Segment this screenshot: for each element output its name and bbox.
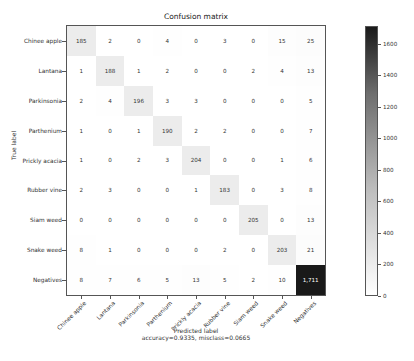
matrix-cell: 185: [67, 26, 96, 56]
matrix-cell: 190: [153, 116, 182, 146]
matrix-cell: 2: [239, 56, 268, 86]
matrix-cell: 0: [96, 116, 125, 146]
matrix-cell: 0: [182, 205, 211, 235]
x-tick: [139, 296, 140, 299]
matrix-cell: 21: [296, 235, 325, 265]
matrix-cell: 0: [239, 86, 268, 116]
matrix-cell: 8: [67, 235, 96, 265]
y-tick-label: Prickly acacia: [23, 158, 62, 164]
matrix-cell: 3: [153, 146, 182, 176]
matrix-cell: 5: [210, 265, 239, 295]
matrix-cell: 4: [96, 86, 125, 116]
matrix-cell: 188: [96, 56, 125, 86]
y-tick: [62, 161, 66, 162]
matrix-cell: 0: [124, 205, 153, 235]
x-tick-label: Lantana: [95, 300, 116, 321]
heatmap-plot: 1852040301525118812002413241963300051011…: [66, 25, 326, 296]
matrix-cell: 0: [124, 235, 153, 265]
matrix-cell: 0: [210, 56, 239, 86]
y-tick-label: Parthenium: [29, 128, 62, 134]
colorbar-tick: [378, 138, 381, 139]
matrix-cell: 0: [268, 86, 297, 116]
matrix-cell: 8: [67, 265, 96, 295]
y-tick: [62, 101, 66, 102]
matrix-cell: 10: [268, 265, 297, 295]
matrix-cell: 3: [268, 175, 297, 205]
matrix-cell: 0: [182, 26, 211, 56]
matrix-cell: 0: [96, 205, 125, 235]
x-axis-title: Predicted label accuracy=0.9335, misclas…: [66, 327, 326, 341]
matrix-cell: 2: [124, 146, 153, 176]
matrix-cell: 1: [67, 146, 96, 176]
matrix-cell: 3: [182, 86, 211, 116]
matrix-cell: 0: [239, 175, 268, 205]
matrix-cell: 0: [210, 205, 239, 235]
colorbar-tick: [378, 296, 381, 297]
colorbar-tick-label: 0: [383, 293, 387, 299]
matrix-cell: 0: [153, 205, 182, 235]
x-tick: [81, 296, 82, 299]
matrix-cell: 2: [210, 235, 239, 265]
colorbar-tick-label: 1400: [383, 72, 397, 78]
matrix-cell: 15: [268, 26, 297, 56]
colorbar-tick: [378, 170, 381, 171]
colorbar-tick-label: 1600: [383, 41, 397, 47]
x-tick-label: Negatives: [292, 300, 317, 325]
y-tick: [62, 250, 66, 251]
x-tick: [282, 296, 283, 299]
matrix-cell: 0: [153, 175, 182, 205]
colorbar-tick: [378, 233, 381, 234]
y-tick-label: Parkinsonia: [29, 98, 62, 104]
matrix-cell: 13: [296, 205, 325, 235]
matrix-cell: 3: [153, 86, 182, 116]
matrix-cell: 2: [182, 116, 211, 146]
y-tick: [62, 131, 66, 132]
y-tick: [62, 71, 66, 72]
matrix-cell: 0: [268, 116, 297, 146]
matrix-cell: 3: [210, 26, 239, 56]
y-tick: [62, 190, 66, 191]
matrix-cell: 0: [96, 146, 125, 176]
matrix-cell: 0: [124, 175, 153, 205]
y-tick-label: Negatives: [33, 277, 62, 283]
matrix-cell: 0: [268, 205, 297, 235]
colorbar-tick: [378, 264, 381, 265]
matrix-cell: 0: [182, 235, 211, 265]
colorbar-tick: [378, 75, 381, 76]
colorbar-tick-label: 600: [383, 198, 394, 204]
y-tick: [62, 280, 66, 281]
matrix-cell: 1: [124, 56, 153, 86]
y-tick-label: Snake weed: [27, 247, 62, 253]
colorbar-tick-label: 200: [383, 261, 394, 267]
matrix-cell: 1,711: [296, 265, 325, 295]
matrix-cell: 2: [67, 86, 96, 116]
x-axis-label: Predicted label: [66, 327, 326, 334]
matrix-cell: 0: [210, 86, 239, 116]
x-tick-label: Rubber vine: [202, 300, 231, 329]
matrix-cell: 1: [67, 56, 96, 86]
matrix-cell: 6: [296, 146, 325, 176]
matrix-cell: 1: [96, 235, 125, 265]
colorbar-tick-label: 1000: [383, 135, 397, 141]
y-tick-label: Rubber vine: [27, 187, 62, 193]
matrix-cell: 13: [296, 56, 325, 86]
y-tick-label: Siam weed: [30, 217, 62, 223]
matrix-cell: 3: [96, 175, 125, 205]
x-tick: [110, 296, 111, 299]
y-tick: [62, 41, 66, 42]
x-tick-label: Snake weed: [259, 300, 288, 329]
x-tick: [225, 296, 226, 299]
x-tick: [311, 296, 312, 299]
matrix-cell: 0: [210, 146, 239, 176]
matrix-cell: 203: [268, 235, 297, 265]
matrix-cell: 7: [96, 265, 125, 295]
x-tick: [196, 296, 197, 299]
x-tick-label: Parthenium: [146, 300, 174, 328]
chart-title: Confusion matrix: [66, 12, 326, 21]
y-tick: [62, 220, 66, 221]
matrix-cell: 8: [296, 175, 325, 205]
matrix-cell: 196: [124, 86, 153, 116]
matrix-cell: 5: [153, 265, 182, 295]
colorbar-tick: [378, 201, 381, 202]
matrix-cell: 1: [124, 116, 153, 146]
